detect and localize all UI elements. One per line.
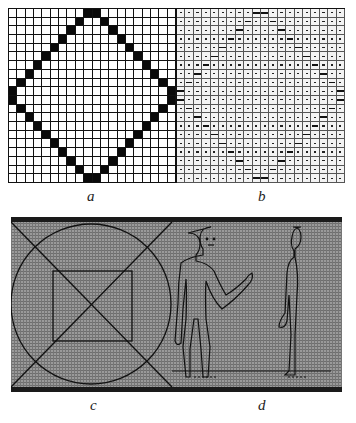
grid-cell xyxy=(295,35,303,44)
grid-cell xyxy=(109,157,117,166)
grid-cell xyxy=(151,157,159,166)
grid-cell xyxy=(42,166,50,175)
grid-cell xyxy=(17,70,25,79)
grid-cell xyxy=(9,166,17,175)
grid-cell xyxy=(109,52,117,61)
grid-cell xyxy=(269,131,277,140)
grid-cell xyxy=(311,70,319,79)
grid-cell xyxy=(109,148,117,157)
grid-cell xyxy=(59,113,67,122)
grid-cell xyxy=(202,122,210,131)
grid-cell xyxy=(51,139,59,148)
grid-cell xyxy=(295,131,303,140)
grid-cell xyxy=(219,166,227,175)
grid-cell xyxy=(278,166,286,175)
grid-cell xyxy=(26,157,34,166)
grid-cell xyxy=(51,113,59,122)
grid-cell xyxy=(151,166,159,175)
grid-cell xyxy=(59,157,67,166)
grid-cell xyxy=(261,18,269,27)
grid-cell xyxy=(42,96,50,105)
grid-cell xyxy=(59,148,67,157)
grid-cell xyxy=(303,157,311,166)
grid-cell xyxy=(67,166,75,175)
grid-cell xyxy=(76,174,84,183)
grid-cell xyxy=(126,26,134,35)
grid-cell xyxy=(177,122,185,131)
grid-cell xyxy=(109,79,117,88)
grid-cell xyxy=(34,139,42,148)
grid-cell xyxy=(194,96,202,105)
grid-cell xyxy=(261,44,269,53)
grid-cell xyxy=(337,9,345,18)
grid-cell xyxy=(159,70,167,79)
grid-cell xyxy=(269,139,277,148)
grid-cell xyxy=(126,35,134,44)
grid-cell xyxy=(76,148,84,157)
grid-cell xyxy=(177,105,185,114)
grid-cell xyxy=(303,52,311,61)
grid-cell xyxy=(17,87,25,96)
grid-cell xyxy=(126,131,134,140)
grid-cell xyxy=(236,35,244,44)
grid-cell xyxy=(185,148,193,157)
grid-cell xyxy=(227,166,235,175)
grid-cell xyxy=(118,61,126,70)
grid-cell xyxy=(328,139,336,148)
grid-cell xyxy=(76,131,84,140)
grid-cell xyxy=(134,131,142,140)
grid-cell xyxy=(34,131,42,140)
grid-cell xyxy=(34,35,42,44)
grid-cell xyxy=(143,35,151,44)
grid-cell xyxy=(202,87,210,96)
grid-cell xyxy=(93,174,101,183)
grid-cell xyxy=(151,174,159,183)
grid-cell xyxy=(118,87,126,96)
grid-cell xyxy=(168,157,176,166)
grid-cell xyxy=(134,105,142,114)
grid-cell xyxy=(244,35,252,44)
grid-cell xyxy=(177,52,185,61)
grid-cell xyxy=(42,9,50,18)
grid-cell xyxy=(278,52,286,61)
grid-cell xyxy=(34,44,42,53)
grid-cell xyxy=(9,79,17,88)
grid-cell xyxy=(126,157,134,166)
grid-cell xyxy=(134,79,142,88)
grid-cell xyxy=(219,96,227,105)
grid-cell xyxy=(211,87,219,96)
grid-cell xyxy=(93,70,101,79)
grid-cell xyxy=(118,9,126,18)
grid-cell xyxy=(303,9,311,18)
grid-cell xyxy=(34,122,42,131)
grid-cell xyxy=(269,174,277,183)
grid-cell xyxy=(261,70,269,79)
grid-cell xyxy=(194,35,202,44)
grid-cell xyxy=(168,174,176,183)
grid-cell xyxy=(42,139,50,148)
grid-cell xyxy=(84,139,92,148)
grid-cell xyxy=(328,52,336,61)
grid-cell xyxy=(202,157,210,166)
grid-cell xyxy=(269,113,277,122)
grid-cell xyxy=(151,26,159,35)
grid-cell xyxy=(194,131,202,140)
grid-cell xyxy=(84,105,92,114)
grid-cell xyxy=(253,166,261,175)
grid-cell xyxy=(84,87,92,96)
grid-cell xyxy=(151,113,159,122)
grid-cell xyxy=(151,96,159,105)
panel-label-a: a xyxy=(87,188,95,205)
grid-cell xyxy=(177,157,185,166)
grid-cell xyxy=(295,105,303,114)
grid-cell xyxy=(26,61,34,70)
grid-cell xyxy=(177,18,185,27)
grid-cell xyxy=(261,174,269,183)
grid-cell xyxy=(151,105,159,114)
grid-cell xyxy=(219,9,227,18)
grid-cell xyxy=(109,26,117,35)
grid-cell xyxy=(311,174,319,183)
grid-cell xyxy=(185,157,193,166)
grid-cell xyxy=(219,122,227,131)
grid-cell xyxy=(101,44,109,53)
